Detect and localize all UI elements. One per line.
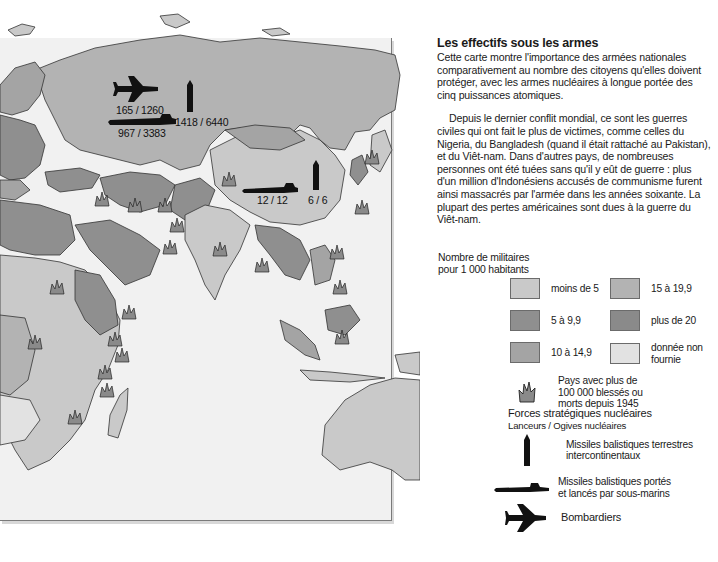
legend-class-4: 15 à 19,9 <box>610 278 692 299</box>
swatch-10-to-14 <box>510 342 540 363</box>
legend-slbm: Missiles balistiques portés et lancés pa… <box>494 476 671 499</box>
china-icbm-count: 6 / 6 <box>308 194 327 206</box>
swatch-no-data <box>610 343 640 364</box>
nuclear-forces-subtitle: Lanceurs / Ogives nucléaires <box>508 420 626 431</box>
legend-class-2: 5 à 9,9 <box>510 310 581 331</box>
world-map: 165 / 1260 967 / 3383 1418 / 6440 12 / 1… <box>0 0 420 562</box>
legend-class-1: moins de 5 <box>510 278 599 299</box>
legend-bombers: Bombardiers <box>505 504 621 532</box>
missile-icon <box>187 80 193 112</box>
swatch-15-to-19 <box>610 278 640 299</box>
nuclear-forces-title: Forces stratégiques nucléaires <box>508 407 652 419</box>
flame-icon <box>518 380 536 404</box>
legend-class-5: plus de 20 <box>610 310 696 331</box>
text-panel: Les effectifs sous les armes Cette carte… <box>437 36 712 226</box>
ussr-icbm-count: 1418 / 6440 <box>175 116 228 128</box>
page-title: Les effectifs sous les armes <box>437 36 712 50</box>
china-submarine-count: 12 / 12 <box>257 194 288 206</box>
swatch-5-to-9 <box>510 310 540 331</box>
legend-class-6: donnée non fournie <box>610 342 703 365</box>
ussr-bomber-count: 165 / 1260 <box>116 104 164 116</box>
intro-paragraph: Cette carte montre l'importance des armé… <box>437 51 712 101</box>
body-paragraph: Depuis le dernier conflit mondial, ce so… <box>437 112 712 225</box>
legend-class-3: 10 à 14,9 <box>510 342 592 363</box>
legend-casualties: Pays avec plus de 100 000 blessés ou mor… <box>518 375 643 410</box>
legend-icbm: Missiles balistiques terrestres intercon… <box>522 434 693 466</box>
bomber-icon <box>505 504 547 532</box>
missile-icon <box>313 160 319 190</box>
missile-icon <box>522 434 532 466</box>
submarine-icon <box>494 481 550 495</box>
ussr-submarine-count: 967 / 3383 <box>118 127 166 139</box>
map-geography <box>0 0 420 562</box>
swatch-more-than-20 <box>610 310 640 331</box>
legend-title: Nombre de militaires pour 1 000 habitant… <box>438 252 529 276</box>
swatch-less-than-5 <box>510 278 540 299</box>
